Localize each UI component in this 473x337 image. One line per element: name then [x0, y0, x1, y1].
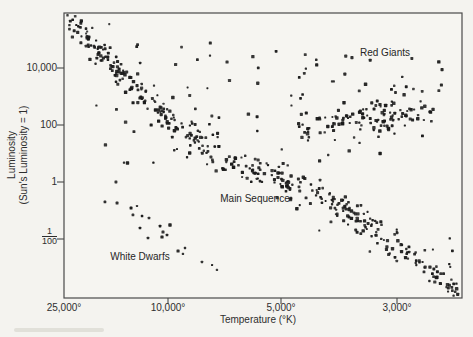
- star-data-point: [85, 45, 88, 48]
- star-data-point: [439, 272, 442, 275]
- star-data-point: [126, 161, 129, 164]
- star-data-point: [338, 202, 341, 205]
- star-data-point: [415, 264, 417, 266]
- star-data-point: [349, 122, 351, 124]
- star-data-point: [356, 212, 359, 215]
- star-data-point: [116, 65, 119, 68]
- star-data-point: [414, 251, 417, 254]
- star-data-point: [281, 185, 285, 189]
- star-data-point: [363, 219, 366, 222]
- star-data-point: [194, 108, 197, 111]
- star-data-point: [449, 266, 451, 268]
- star-data-point: [404, 114, 408, 118]
- star-data-point: [424, 249, 427, 252]
- y-axis-title-line1: Luminosity: [6, 90, 18, 220]
- star-data-point: [307, 130, 309, 132]
- star-data-point: [76, 31, 79, 34]
- star-data-point: [380, 106, 382, 108]
- star-data-point: [405, 85, 408, 88]
- star-data-point: [370, 101, 373, 104]
- star-data-point: [356, 217, 359, 220]
- star-data-point: [331, 199, 333, 201]
- star-data-point: [103, 44, 106, 47]
- star-data-point: [271, 174, 273, 176]
- star-data-point: [343, 73, 346, 76]
- star-data-point: [371, 223, 373, 225]
- star-data-point: [187, 86, 189, 88]
- star-data-point: [337, 123, 340, 126]
- star-data-point: [160, 113, 163, 116]
- star-data-point: [159, 225, 162, 228]
- star-data-point: [257, 159, 260, 162]
- star-data-point: [161, 124, 164, 127]
- star-data-point: [369, 59, 372, 62]
- star-data-point: [295, 207, 299, 211]
- star-data-point: [154, 108, 157, 111]
- star-data-point: [197, 130, 199, 132]
- star-data-point: [139, 95, 142, 98]
- star-data-point: [160, 235, 163, 238]
- star-data-point: [136, 101, 139, 104]
- star-data-point: [363, 117, 365, 119]
- star-data-point: [273, 181, 275, 183]
- star-data-point: [366, 228, 368, 230]
- star-data-point: [413, 108, 415, 110]
- star-data-point: [80, 19, 83, 22]
- star-data-point: [86, 31, 88, 33]
- star-data-point: [299, 181, 302, 184]
- star-data-point: [437, 60, 440, 63]
- star-data-point: [95, 104, 97, 106]
- star-data-point: [298, 125, 301, 128]
- star-data-point: [174, 63, 177, 66]
- star-data-point: [380, 124, 383, 127]
- star-data-point: [132, 80, 135, 83]
- star-data-point: [115, 56, 118, 59]
- star-data-point: [152, 162, 154, 164]
- star-data-point: [348, 149, 351, 152]
- star-data-point: [394, 91, 397, 94]
- star-data-point: [423, 271, 426, 274]
- star-data-point: [104, 201, 107, 204]
- region-label-red-giants: Red Giants: [360, 47, 410, 58]
- star-data-point: [203, 150, 205, 152]
- star-data-point: [88, 58, 91, 61]
- star-data-point: [256, 178, 258, 180]
- star-data-point: [334, 139, 336, 141]
- star-data-point: [332, 124, 334, 126]
- star-data-point: [359, 220, 362, 223]
- star-data-point: [130, 207, 133, 210]
- star-data-point: [68, 28, 71, 31]
- star-data-point: [358, 122, 360, 124]
- star-data-point: [365, 108, 367, 110]
- star-data-point: [254, 172, 257, 175]
- star-data-point: [222, 168, 224, 170]
- star-data-point: [298, 76, 301, 79]
- star-data-point: [341, 122, 344, 125]
- star-data-point: [254, 158, 257, 161]
- star-data-point: [396, 260, 399, 263]
- star-data-point: [421, 134, 424, 137]
- star-data-point: [431, 108, 434, 111]
- star-data-point: [206, 87, 208, 89]
- star-data-point: [228, 79, 231, 82]
- star-data-point: [360, 124, 362, 126]
- star-data-point: [104, 47, 107, 50]
- star-data-point: [308, 136, 311, 139]
- star-data-point: [321, 187, 324, 190]
- star-data-point: [73, 29, 76, 32]
- star-data-point: [378, 152, 381, 155]
- star-data-point: [256, 130, 258, 132]
- star-data-point: [106, 56, 109, 59]
- star-data-point: [189, 124, 191, 126]
- star-data-point: [298, 190, 301, 193]
- star-data-point: [315, 63, 318, 66]
- star-data-point: [144, 100, 146, 102]
- star-data-point: [148, 217, 151, 220]
- star-data-point: [173, 129, 177, 133]
- star-data-point: [259, 168, 262, 171]
- star-data-point: [86, 36, 89, 39]
- star-data-point: [440, 84, 443, 87]
- star-data-point: [278, 172, 281, 175]
- star-data-point: [147, 237, 150, 240]
- star-data-point: [449, 237, 451, 239]
